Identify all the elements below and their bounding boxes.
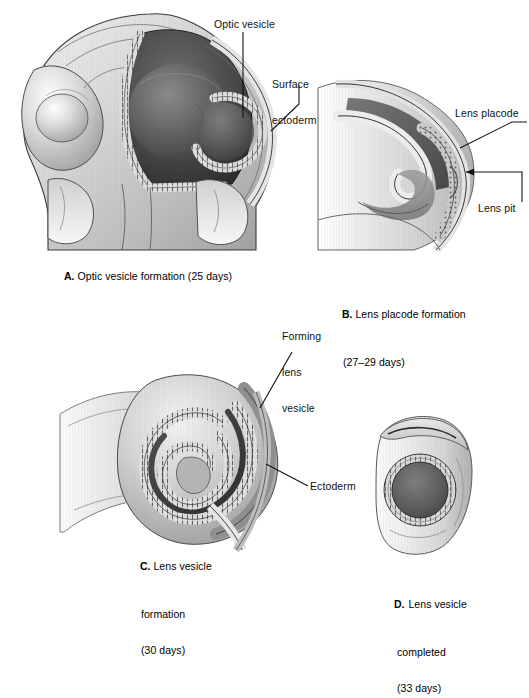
arrowhead-lens-pit — [466, 169, 474, 176]
caption-c-text1: Lens vesicle — [153, 560, 211, 572]
lens-vesicle-ring — [384, 454, 456, 526]
caption-panel-b: B.Lens placode formation (27–29 days) — [330, 272, 466, 380]
panel-a-svg — [0, 0, 300, 250]
leader-ectoderm-c — [266, 464, 308, 486]
caption-a-letter: A. — [64, 270, 75, 282]
lens-vesicle-cavity-c — [177, 457, 211, 493]
caption-b-line1: B.Lens placode formation — [330, 296, 466, 332]
caption-d-line1: D.Lens vesicle — [382, 586, 467, 622]
label-surface-ectoderm-line1: Surface — [272, 78, 317, 90]
label-surface-ectoderm: Surface ectoderm — [272, 54, 317, 138]
panel-a-illustration — [0, 0, 300, 250]
leader-lens-pit — [466, 172, 522, 202]
leader-forming-lens-vesicle — [260, 352, 292, 408]
optic-vesicle-structure — [196, 96, 263, 168]
caption-panel-c: C.Lens vesicle formation (30 days) — [128, 524, 212, 668]
caption-d-letter: D. — [394, 598, 405, 610]
caption-d-line2: completed — [397, 646, 467, 658]
caption-panel-d: D.Lens vesicle completed (33 days) — [382, 562, 467, 698]
panel-b-leaders — [430, 110, 529, 220]
caption-a-text: Optic vesicle formation (25 days) — [78, 270, 233, 282]
caption-b-text1: Lens placode formation — [355, 308, 465, 320]
caption-c-letter: C. — [140, 560, 151, 572]
caption-b-line2: (27–29 days) — [343, 356, 466, 368]
caption-c-line3: (30 days) — [141, 644, 212, 656]
caption-panel-a: A.Optic vesicle formation (25 days) — [58, 258, 232, 282]
panel-d-illustration — [368, 408, 508, 558]
caption-d-line3: (33 days) — [397, 682, 467, 694]
panel-d-svg — [368, 408, 508, 558]
label-surface-ectoderm-line2: ectoderm — [272, 114, 317, 126]
leader-lens-placode — [460, 122, 527, 148]
label-optic-vesicle: Optic vesicle — [214, 19, 275, 31]
caption-d-text1: Lens vesicle — [408, 598, 466, 610]
caption-c-line1: C.Lens vesicle — [128, 548, 212, 584]
panel-c-leaders — [230, 340, 350, 500]
caption-c-line2: formation — [141, 608, 212, 620]
caption-b-letter: B. — [342, 308, 353, 320]
